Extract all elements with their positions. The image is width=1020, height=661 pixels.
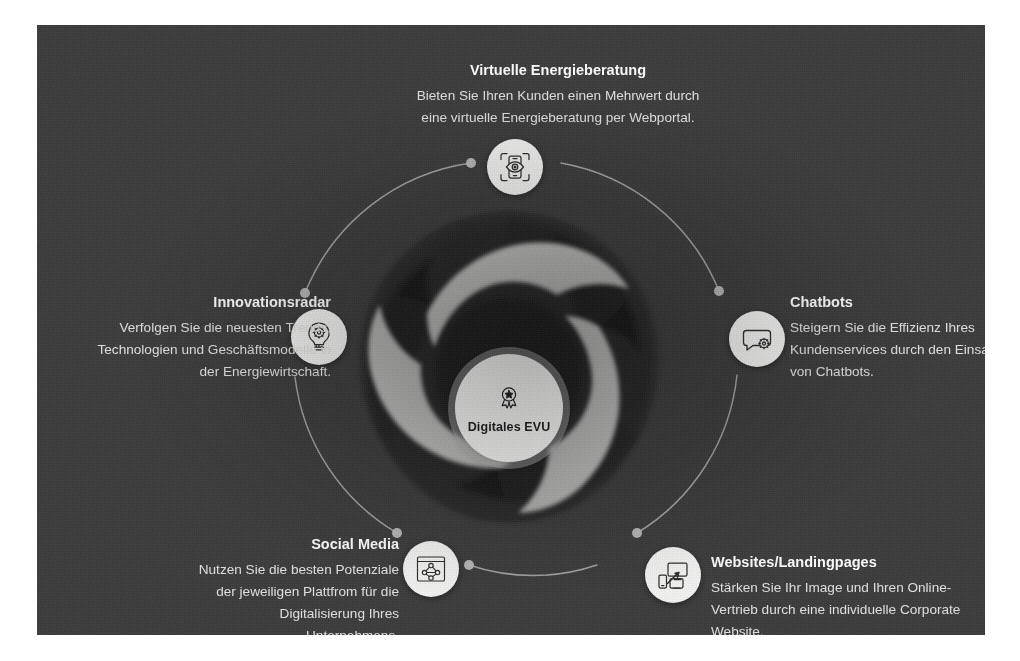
node-title-innovationsradar: Innovationsradar [93,293,331,313]
text-block-chatbots: Chatbots Steigern Sie die Effizienz Ihre… [790,293,985,383]
central-hub-label: Digitales EVU [468,420,551,434]
central-hub[interactable]: Digitales EVU [455,354,563,462]
node-title-chatbots: Chatbots [790,293,985,313]
award-badge-icon [494,383,524,417]
node-title-websites-landingpages: Websites/Landingpages [711,553,969,573]
node-description-virtuelle-energieberatung: Bieten Sie Ihren Kunden einen Mehrwert d… [415,85,701,130]
text-block-innovationsradar: Innovationsradar Verfolgen Sie die neues… [93,293,331,383]
node-description-chatbots: Steigern Sie die Effizienz Ihres Kundens… [790,317,985,384]
text-block-virtuelle-energieberatung: Virtuelle Energieberatung Bieten Sie Ihr… [415,61,701,129]
node-title-virtuelle-energieberatung: Virtuelle Energieberatung [415,61,701,81]
text-block-social-media: Social Media Nutzen Sie die besten Poten… [185,535,399,635]
node-icon-websites-landingpages[interactable] [645,547,701,603]
node-title-social-media: Social Media [185,535,399,555]
node-icon-chatbots[interactable] [729,311,785,367]
responsive-devices-cursor-icon [656,558,690,592]
infographic-card: Digitales EVU Virtuelle Energieberatung … [37,25,985,635]
node-icon-virtuelle-energieberatung[interactable] [487,139,543,195]
speech-bubble-gear-icon [740,322,774,356]
network-share-frame-icon [414,552,448,586]
node-description-innovationsradar: Verfolgen Sie die neuesten Trends, Techn… [93,317,331,384]
text-block-websites-landingpages: Websites/Landingpages Stärken Sie Ihr Im… [711,553,969,635]
diagram-screenshot: Digitales EVU Virtuelle Energieberatung … [0,0,1020,661]
node-description-websites-landingpages: Stärken Sie Ihr Image und Ihren Online-V… [711,577,969,635]
node-description-social-media: Nutzen Sie die besten Potenziale der jew… [185,559,399,635]
smartphone-eye-scan-icon [498,150,532,184]
node-icon-social-media[interactable] [403,541,459,597]
